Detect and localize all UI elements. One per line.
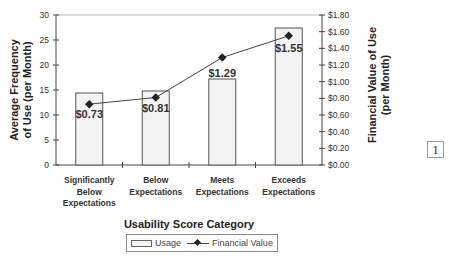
left-axis-title: of Use (per Month) — [21, 41, 33, 138]
legend: Usage Financial Value — [126, 234, 278, 252]
category-label: Expectations — [129, 187, 182, 197]
financial-value-marker — [218, 53, 226, 61]
legend-financial-line-icon — [187, 239, 209, 247]
usage-bar — [209, 79, 236, 165]
left-axis-tick-label: 0 — [44, 160, 49, 170]
right-axis-tick-label: $1.80 — [328, 10, 350, 20]
x-axis-title: Usability Score Category — [124, 218, 255, 230]
category-label: Significantly — [64, 175, 115, 185]
financial-value-data-label: $1.55 — [275, 42, 303, 54]
category-label: Below — [143, 175, 168, 185]
left-axis-tick-label: 20 — [40, 60, 50, 70]
left-axis-tick-label: 30 — [40, 10, 50, 20]
combo-chart: 051015202530$0.00$0.20$0.40$0.60$0.80$1.… — [0, 0, 449, 260]
category-label: Expectations — [262, 187, 315, 197]
right-axis-tick-label: $1.60 — [328, 27, 350, 37]
category-label: Meets — [210, 175, 234, 185]
left-axis-tick-label: 25 — [40, 35, 50, 45]
right-axis-tick-label: $0.80 — [328, 93, 350, 103]
right-axis-tick-label: $1.00 — [328, 77, 350, 87]
legend-usage-swatch — [131, 240, 152, 247]
financial-value-data-label: $0.81 — [142, 102, 170, 114]
financial-value-data-label: $0.73 — [75, 108, 103, 120]
right-axis-title: Financial Value of Use — [366, 27, 378, 143]
legend-usage-label: Usage — [155, 238, 181, 248]
right-axis-tick-label: $0.20 — [328, 143, 350, 153]
left-axis-tick-label: 15 — [40, 85, 50, 95]
financial-value-data-label: $1.29 — [208, 67, 236, 79]
category-label: Below — [77, 187, 102, 197]
right-axis-title: (per Month) — [379, 54, 391, 115]
page-number-box: 1 — [427, 141, 444, 158]
category-label: Expectations — [196, 187, 249, 197]
left-axis-title: Average Frequency — [8, 38, 20, 141]
right-axis-tick-label: $0.60 — [328, 110, 350, 120]
plot-area: 051015202530$0.00$0.20$0.40$0.60$0.80$1.… — [8, 10, 391, 230]
left-axis-tick-label: 10 — [40, 110, 50, 120]
right-axis-tick-label: $0.00 — [328, 160, 350, 170]
category-label: Expectations — [63, 198, 116, 208]
right-axis-tick-label: $1.20 — [328, 60, 350, 70]
legend-financial-label: Financial Value — [212, 238, 273, 248]
category-label: Exceeds — [272, 175, 307, 185]
right-axis-tick-label: $0.40 — [328, 127, 350, 137]
left-axis-tick-label: 5 — [44, 135, 49, 145]
financial-value-line — [89, 36, 289, 104]
right-axis-tick-label: $1.40 — [328, 43, 350, 53]
